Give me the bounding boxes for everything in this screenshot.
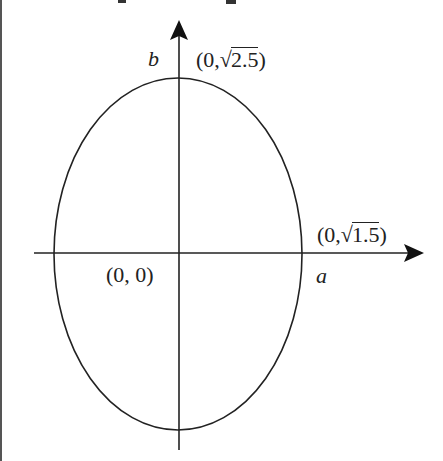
vertical-axis-label: b bbox=[148, 48, 159, 70]
top-point-prefix: (0, bbox=[196, 47, 220, 72]
top-point-radicand: 2.5 bbox=[231, 47, 259, 71]
top-point-label: (0,√2.5) bbox=[196, 47, 266, 71]
origin-label: (0, 0) bbox=[106, 264, 154, 286]
ellipse-curve bbox=[54, 78, 302, 430]
right-point-suffix: ) bbox=[379, 222, 386, 247]
top-point-suffix: ) bbox=[258, 47, 265, 72]
right-point-label: (0,√1.5) bbox=[317, 222, 387, 246]
right-point-prefix: (0, bbox=[317, 222, 341, 247]
diagram-canvas: b (0,√2.5) (0,√1.5) (0, 0) a bbox=[0, 0, 443, 461]
horizontal-axis-label: a bbox=[316, 265, 327, 287]
right-point-radicand: 1.5 bbox=[352, 222, 380, 246]
